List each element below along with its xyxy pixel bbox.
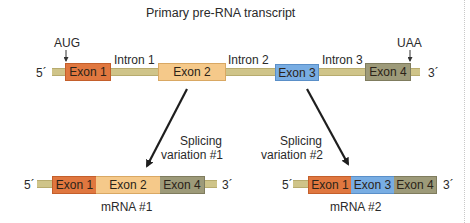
mrna-1-three-prime: 3´	[222, 179, 233, 191]
mrna-2-three-prime: 3´	[443, 179, 454, 191]
variation-1-label-line1: Splicing	[173, 135, 229, 147]
page-edge-divider	[464, 0, 465, 223]
mrna-1-exon-4: Exon 4	[160, 176, 205, 194]
mrna-2-exon-3: Exon 3	[351, 176, 394, 194]
mrna-2-exon-1: Exon 1	[308, 176, 351, 194]
mrna-1-exon-2: Exon 2	[96, 176, 160, 194]
mrna-1-exon-1: Exon 1	[52, 176, 96, 194]
mrna-2-exon-4: Exon 4	[394, 176, 437, 194]
variation-2-label-line1: Splicing	[273, 135, 329, 147]
variation-1-label-line2: variation #1	[161, 149, 223, 161]
mrna-2-five-prime: 5´	[282, 179, 293, 191]
mrna-1-label: mRNA #1	[101, 201, 152, 213]
variation-2-label-line2: variation #2	[261, 149, 323, 161]
mrna-2-label: mRNA #2	[330, 201, 381, 213]
mrna-1-five-prime: 5´	[24, 179, 35, 191]
